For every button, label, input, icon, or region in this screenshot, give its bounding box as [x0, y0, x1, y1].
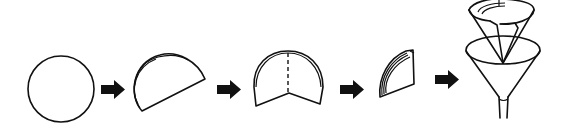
- step-quarter-fold: [380, 50, 414, 97]
- right-arrow-icon: [101, 80, 125, 99]
- step-fold-line: [254, 51, 323, 106]
- step-circle-paper: [28, 56, 94, 122]
- right-arrow-icon: [217, 80, 241, 99]
- filter-paper-folding-diagram: [0, 0, 565, 128]
- step-half-circle: [134, 54, 205, 111]
- right-arrow-icon: [435, 70, 459, 89]
- right-arrow-icon: [340, 80, 364, 99]
- step-cone-in-funnel: [466, 0, 540, 118]
